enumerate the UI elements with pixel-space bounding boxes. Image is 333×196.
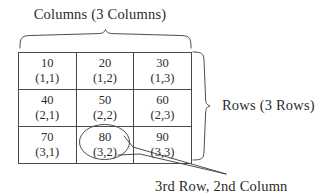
cell-value: 80 xyxy=(77,130,134,145)
cell-value: 60 xyxy=(134,93,191,108)
cell-index: (1,1) xyxy=(19,71,76,86)
columns-label: Columns (3 Columns) xyxy=(0,7,200,22)
cell-content: 60 (2,3) xyxy=(134,93,191,123)
columns-brace-icon xyxy=(20,30,191,49)
cell-1-1[interactable]: 10 (1,1) xyxy=(19,53,77,90)
table-row: 10 (1,1) 20 (1,2) 30 (1,3) xyxy=(19,53,192,90)
matrix-grid: 10 (1,1) 20 (1,2) 30 (1,3) xyxy=(18,52,192,164)
cell-content: 10 (1,1) xyxy=(19,56,76,86)
cell-content: 40 (2,1) xyxy=(19,93,76,123)
cell-value: 30 xyxy=(134,56,191,71)
cell-2-1[interactable]: 40 (2,1) xyxy=(19,90,77,127)
table-row: 70 (3,1) 80 (3,2) 90 (3,3) xyxy=(19,127,192,164)
cell-content: 90 (3,3) xyxy=(134,130,191,160)
cell-1-2[interactable]: 20 (1,2) xyxy=(76,53,134,90)
cell-value: 20 xyxy=(77,56,134,71)
cell-value: 90 xyxy=(134,130,191,145)
cell-content: 30 (1,3) xyxy=(134,56,191,86)
cell-index: (2,1) xyxy=(19,108,76,123)
cell-index: (1,3) xyxy=(134,71,191,86)
cell-content: 50 (2,2) xyxy=(77,93,134,123)
pointer-caption: 3rd Row, 2nd Column xyxy=(155,179,288,194)
cell-2-3[interactable]: 60 (2,3) xyxy=(134,90,192,127)
cell-content: 70 (3,1) xyxy=(19,130,76,160)
cell-index: (2,2) xyxy=(77,108,134,123)
cell-2-2[interactable]: 50 (2,2) xyxy=(76,90,134,127)
cell-value: 70 xyxy=(19,130,76,145)
cell-value: 40 xyxy=(19,93,76,108)
cell-3-2[interactable]: 80 (3,2) xyxy=(76,127,134,164)
cell-index: (3,1) xyxy=(19,145,76,160)
cell-1-3[interactable]: 30 (1,3) xyxy=(134,53,192,90)
cell-content: 80 (3,2) xyxy=(77,130,134,160)
cell-index: (1,2) xyxy=(77,71,134,86)
matrix-indexing-diagram: Columns (3 Columns) Rows (3 Rows) 3rd Ro… xyxy=(0,0,333,196)
cell-index: (2,3) xyxy=(134,108,191,123)
rows-brace-icon xyxy=(193,52,210,160)
cell-value: 50 xyxy=(77,93,134,108)
cell-content: 20 (1,2) xyxy=(77,56,134,86)
cell-index: (3,3) xyxy=(134,145,191,160)
table-row: 40 (2,1) 50 (2,2) 60 (2,3) xyxy=(19,90,192,127)
cell-3-3[interactable]: 90 (3,3) xyxy=(134,127,192,164)
cell-3-1[interactable]: 70 (3,1) xyxy=(19,127,77,164)
rows-label: Rows (3 Rows) xyxy=(222,98,315,113)
matrix-grid-body: 10 (1,1) 20 (1,2) 30 (1,3) xyxy=(19,53,192,164)
cell-index: (3,2) xyxy=(77,145,134,160)
cell-value: 10 xyxy=(19,56,76,71)
